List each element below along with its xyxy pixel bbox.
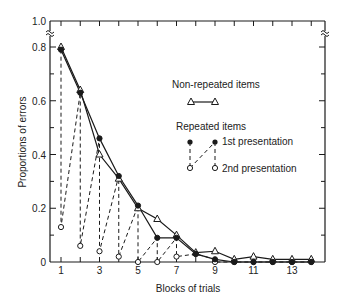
open-circle-marker-icon	[174, 254, 179, 259]
y-tick-label: 1.0	[32, 16, 46, 27]
filled-circle-marker-icon	[78, 90, 83, 95]
legend: Non-repeated items Repeated items 1st pr…	[172, 79, 297, 174]
x-tick-label: 1	[58, 265, 64, 276]
x-tick-label: 9	[212, 265, 218, 276]
open-circle-marker-icon	[78, 243, 83, 248]
filled-circle-marker-icon	[174, 235, 179, 240]
filled-circle-marker-icon	[116, 173, 121, 178]
filled-circle-marker-icon	[270, 259, 275, 264]
open-circle-marker-icon	[135, 259, 140, 264]
y-tick-label: 0.8	[32, 42, 46, 53]
filled-circle-marker-icon	[251, 259, 256, 264]
filled-circle-marker-icon	[232, 259, 237, 264]
legend-triangle-icon	[188, 98, 195, 105]
open-circle-marker-icon	[155, 259, 160, 264]
y-tick-label: 0.4	[32, 150, 46, 161]
legend-repeated-label: Repeated items	[176, 121, 246, 132]
legend-first-presentation-label: 1st presentation	[222, 136, 293, 147]
open-circle-marker-icon	[58, 224, 63, 229]
y-axis-label: Proportions of errors	[17, 96, 28, 187]
legend-filled-circle-icon	[187, 139, 192, 144]
open-circle-marker-icon	[116, 254, 121, 259]
y-tick-label: 0.2	[32, 203, 46, 214]
data-series	[58, 43, 315, 265]
legend-dashed-diagonal	[190, 142, 215, 168]
filled-circle-marker-icon	[155, 235, 160, 240]
open-circle-marker-icon	[97, 249, 102, 254]
legend-open-circle-icon	[212, 165, 217, 170]
filled-circle-marker-icon	[309, 259, 314, 264]
filled-circle-marker-icon	[135, 203, 140, 208]
legend-second-presentation-label: 2nd presentation	[222, 163, 297, 174]
triangle-marker-icon	[250, 253, 257, 260]
filled-circle-marker-icon	[289, 259, 294, 264]
error-proportion-chart: 13579111300.20.40.60.81.0 Non-repeated i…	[0, 0, 343, 305]
x-tick-label: 5	[135, 265, 141, 276]
x-tick-label: 7	[174, 265, 180, 276]
y-tick-label: 0.6	[32, 96, 46, 107]
y-tick-label: 0	[40, 257, 46, 268]
legend-triangle-icon	[212, 98, 219, 105]
filled-circle-marker-icon	[212, 257, 217, 262]
x-tick-label: 13	[286, 265, 298, 276]
triangle-marker-icon	[212, 247, 219, 254]
filled-circle-marker-icon	[193, 251, 198, 256]
legend-filled-circle-icon	[212, 139, 217, 144]
x-axis-label: Blocks of trials	[156, 283, 220, 294]
x-tick-label: 11	[248, 265, 259, 276]
x-tick-label: 3	[97, 265, 103, 276]
legend-non-repeated-label: Non-repeated items	[172, 79, 260, 90]
filled-circle-marker-icon	[58, 47, 63, 52]
filled-circle-marker-icon	[97, 136, 102, 141]
legend-open-circle-icon	[187, 165, 192, 170]
